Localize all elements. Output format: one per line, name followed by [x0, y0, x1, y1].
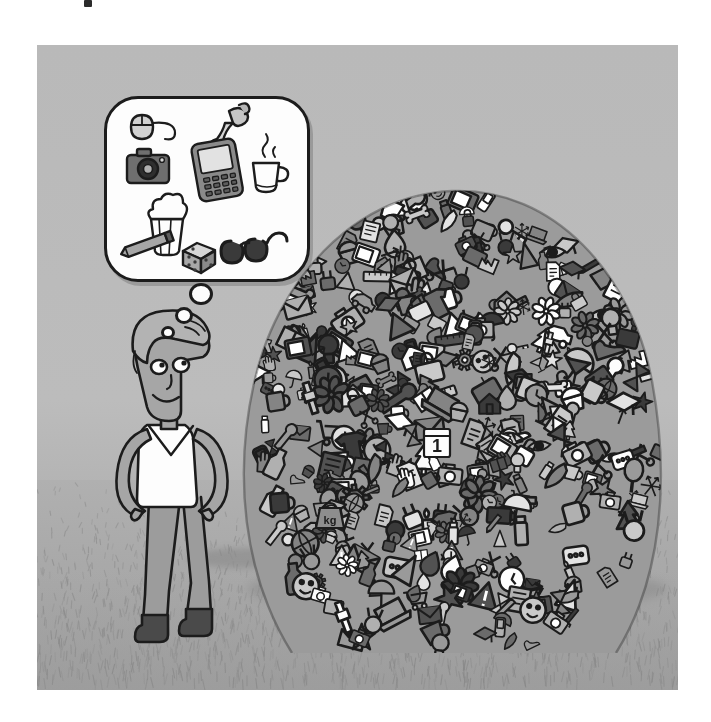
pile-item — [449, 523, 458, 545]
thought-dot-small — [161, 326, 175, 339]
right-eye — [173, 358, 189, 372]
left-hand — [131, 509, 143, 520]
thought-dot-large — [189, 283, 213, 305]
pile-item — [360, 220, 381, 242]
standing-man — [87, 303, 267, 663]
left-eye — [151, 360, 167, 374]
pile-item — [495, 617, 506, 637]
calendar-day-number: 1 — [432, 436, 442, 456]
pile-item — [364, 272, 392, 282]
illustration-panel: 1 kg — [37, 45, 678, 690]
left-boot — [135, 615, 168, 642]
right-boot — [179, 609, 212, 636]
left-pupil — [159, 362, 164, 367]
thought-bubble — [104, 96, 310, 282]
right-pupil — [181, 360, 186, 365]
thought-bubble-contents — [107, 99, 307, 279]
sunglasses-icon — [221, 233, 287, 263]
dice-icon — [183, 243, 215, 273]
pile-item-calendar: 1 — [424, 429, 450, 457]
pile-item — [514, 516, 528, 545]
pile-item — [462, 333, 475, 350]
left-leg — [143, 499, 179, 621]
thought-dot-medium — [175, 307, 193, 324]
stray-ink-mark — [84, 0, 92, 7]
pile-item — [284, 337, 312, 360]
coffee-cup-icon — [253, 134, 288, 192]
illustration-canvas: 1 kg — [0, 0, 711, 722]
weight-kg-label: kg — [324, 514, 337, 526]
smartphone-icon — [190, 138, 243, 203]
computer-mouse-icon — [131, 115, 175, 139]
camera-icon — [127, 149, 169, 183]
